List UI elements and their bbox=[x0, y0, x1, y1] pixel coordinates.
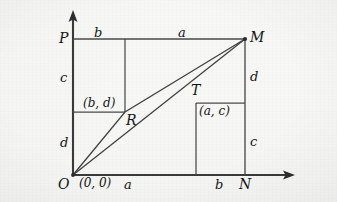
segment-label-top-right: a bbox=[178, 26, 186, 39]
point-label-O: O bbox=[58, 177, 69, 191]
coordinate-label-T: (a, c) bbox=[199, 105, 230, 117]
point-dot-O bbox=[71, 173, 75, 177]
coordinate-label-origin: (0, 0) bbox=[79, 177, 111, 189]
point-label-P: P bbox=[59, 31, 68, 45]
coordinate-label-R: (b, d) bbox=[83, 97, 115, 109]
segment-label-top-left: b bbox=[94, 26, 102, 39]
segment-label-right-lower: c bbox=[250, 135, 257, 148]
point-dot-M bbox=[243, 37, 247, 41]
point-label-M: M bbox=[250, 30, 264, 44]
geometry-figure bbox=[0, 0, 337, 202]
segment-label-left-lower: d bbox=[60, 136, 68, 149]
segment-label-left-upper: c bbox=[60, 71, 67, 84]
point-label-N: N bbox=[239, 177, 251, 191]
point-label-T: T bbox=[191, 83, 200, 97]
diagram-canvas: P M N O R T (0, 0) (b, d) (a, c) b a c d… bbox=[0, 0, 337, 202]
segment-label-bottom-right: b bbox=[215, 178, 223, 191]
segment-label-right-upper: d bbox=[250, 70, 258, 83]
segment-label-bottom-left: a bbox=[124, 178, 132, 191]
point-label-R: R bbox=[126, 113, 137, 127]
